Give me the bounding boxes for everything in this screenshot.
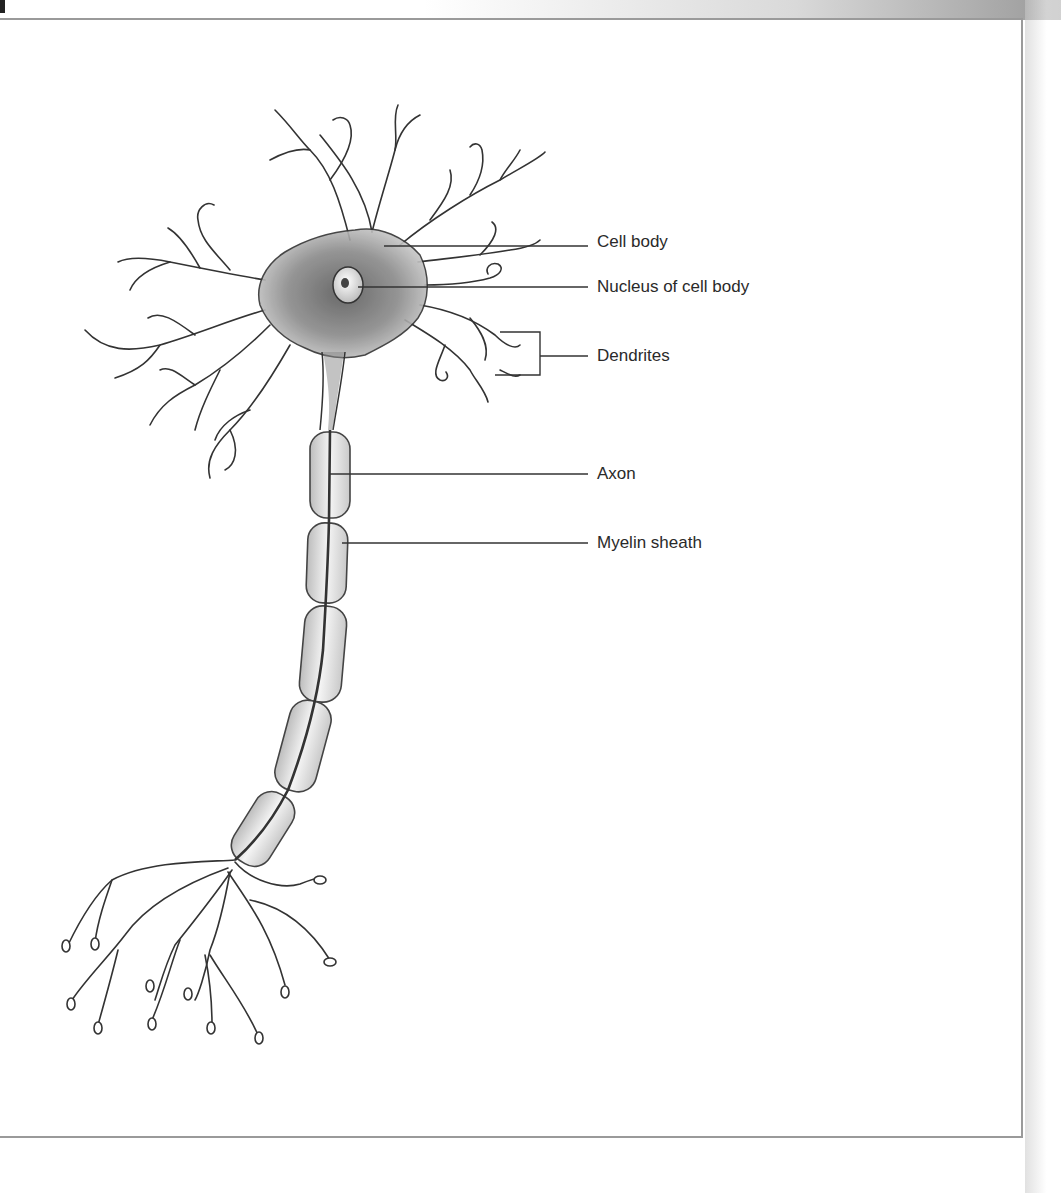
label-cell-body: Cell body bbox=[597, 232, 668, 252]
dendrites-bracket bbox=[495, 332, 540, 375]
neuron-diagram bbox=[0, 0, 1061, 1193]
label-dendrites: Dendrites bbox=[597, 346, 670, 366]
label-axon: Axon bbox=[597, 464, 636, 484]
axon-terminals bbox=[68, 860, 330, 1035]
label-nucleus: Nucleus of cell body bbox=[597, 277, 749, 297]
label-myelin-sheath: Myelin sheath bbox=[597, 533, 702, 553]
myelin-segments bbox=[225, 432, 350, 873]
axon-terminal-bulbs bbox=[62, 876, 336, 1044]
